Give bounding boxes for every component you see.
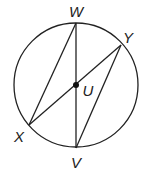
label-V: V <box>71 154 83 171</box>
circle-diagram: W Y X V U <box>0 0 146 182</box>
label-U: U <box>83 82 94 99</box>
label-Y: Y <box>123 29 134 46</box>
label-X: X <box>13 128 25 145</box>
label-W: W <box>69 3 85 20</box>
center-point <box>73 82 79 88</box>
